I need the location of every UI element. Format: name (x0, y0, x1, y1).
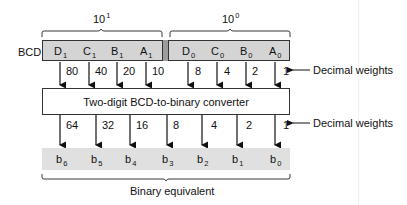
bit-letter: C (83, 45, 91, 57)
weight-2-bin: 2 (246, 119, 252, 131)
weight-64: 64 (66, 119, 78, 131)
weight-4: 4 (224, 65, 230, 77)
weight-8-bin: 8 (173, 119, 179, 131)
bit-subscript: 0 (220, 51, 224, 60)
bcd-bit-b0: B0 (240, 45, 253, 59)
binary-bit-b1: b1 (232, 153, 243, 167)
bcd-label: BCD (18, 46, 41, 58)
weight-40: 40 (95, 65, 107, 77)
bcd-bit-d0: D0 (182, 45, 195, 59)
bit-subscript: 0 (277, 51, 281, 60)
tens-digit-label: 101 (93, 13, 110, 27)
binary-bit-b4: b4 (125, 153, 136, 167)
bit-subscript: 3 (169, 159, 173, 168)
units-base: 10 (222, 13, 234, 25)
weight-20: 20 (123, 65, 135, 77)
bit-subscript: 1 (239, 159, 243, 168)
decimal-weights-label-top: Decimal weights (313, 64, 393, 76)
binary-arrows (60, 115, 275, 145)
digit-divider (162, 40, 169, 61)
bit-subscript: 2 (204, 159, 208, 168)
weight-80: 80 (66, 65, 78, 77)
bcd-bit-d1: D1 (54, 45, 67, 59)
bit-letter: B (240, 45, 247, 57)
bit-subscript: 4 (132, 159, 136, 168)
bit-letter: b (162, 153, 168, 165)
decimal-weights-label-bottom: Decimal weights (313, 117, 393, 129)
bcd-bit-a0: A0 (269, 45, 282, 59)
weight-8: 8 (195, 65, 201, 77)
weight-1: 1 (283, 65, 289, 77)
converter-label: Two-digit BCD-to-binary converter (83, 96, 249, 108)
bit-letter: b (197, 153, 203, 165)
binary-bit-b6: b6 (56, 153, 67, 167)
bit-subscript: 1 (63, 51, 67, 60)
binary-bit-b0: b0 (270, 153, 281, 167)
bit-letter: b (232, 153, 238, 165)
weight-4-bin: 4 (211, 119, 217, 131)
bit-letter: D (54, 45, 62, 57)
bcd-to-binary-converter: Two-digit BCD-to-binary converter (42, 88, 290, 115)
bit-letter: B (111, 45, 118, 57)
bit-letter: A (140, 45, 147, 57)
binary-bit-b2: b2 (197, 153, 208, 167)
tens-exponent: 1 (106, 11, 110, 20)
bit-letter: b (56, 153, 62, 165)
bit-subscript: 0 (248, 51, 252, 60)
units-digit-label: 100 (222, 13, 239, 27)
bit-letter: D (182, 45, 190, 57)
units-exponent: 0 (235, 11, 239, 20)
weight-10: 10 (152, 65, 164, 77)
binary-bit-b5: b5 (91, 153, 102, 167)
weight-1-bin: 1 (283, 119, 289, 131)
bcd-bit-c1: C1 (83, 45, 96, 59)
binary-bit-b3: b3 (162, 153, 173, 167)
bit-letter: C (211, 45, 219, 57)
binary-brace (42, 174, 290, 181)
bit-subscript: 1 (92, 51, 96, 60)
bit-subscript: 1 (148, 51, 152, 60)
tens-brace (42, 29, 162, 37)
bit-letter: b (270, 153, 276, 165)
weight-16: 16 (136, 119, 148, 131)
bcd-bit-c0: C0 (211, 45, 224, 59)
weight-32: 32 (102, 119, 114, 131)
bit-letter: b (125, 153, 131, 165)
weight-2: 2 (252, 65, 258, 77)
bcd-bit-a1: A1 (140, 45, 153, 59)
bit-subscript: 5 (98, 159, 102, 168)
bit-letter: b (91, 153, 97, 165)
tens-base: 10 (93, 13, 105, 25)
binary-equivalent-label: Binary equivalent (130, 185, 214, 197)
units-brace (170, 29, 290, 37)
bit-subscript: 0 (191, 51, 195, 60)
bit-subscript: 1 (119, 51, 123, 60)
bit-letter: A (269, 45, 276, 57)
bcd-bit-b1: B1 (111, 45, 124, 59)
bcd-arrows (60, 62, 275, 85)
bit-subscript: 0 (277, 159, 281, 168)
bit-subscript: 6 (63, 159, 67, 168)
